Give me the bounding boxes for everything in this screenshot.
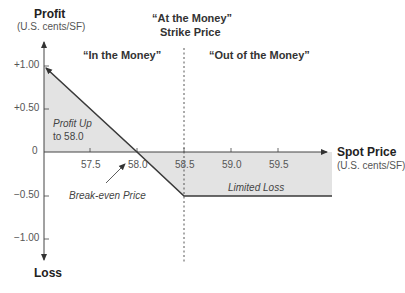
x-tick-label: 58.5 bbox=[175, 159, 194, 170]
x-tick-label: 59.0 bbox=[222, 159, 241, 170]
y-axis-unit: (U.S. cents/SF) bbox=[17, 21, 85, 32]
y-tick-label: 0 bbox=[32, 145, 38, 156]
out-of-the-money-label: “Out of the Money” bbox=[209, 49, 310, 61]
x-axis-title: Spot Price bbox=[337, 145, 396, 159]
x-axis-unit: (U.S. cents/SF) bbox=[337, 160, 405, 171]
x-tick-label: 58.0 bbox=[128, 159, 147, 170]
x-tick-label: 59.5 bbox=[269, 159, 288, 170]
strike-price-label: Strike Price bbox=[160, 26, 221, 38]
y-tick-label: −1.00 bbox=[14, 232, 39, 243]
y-tick-label: +1.00 bbox=[14, 59, 39, 70]
profit-annotation: Profit Up bbox=[53, 118, 92, 129]
y-tick-label: +0.50 bbox=[14, 102, 39, 113]
break-even-annotation: Break-even Price bbox=[69, 190, 146, 201]
y-axis-loss-label: Loss bbox=[34, 266, 62, 280]
profit-annotation-price: to 58.0 bbox=[53, 131, 84, 142]
y-axis-title: Profit bbox=[34, 7, 65, 21]
x-tick-label: 57.5 bbox=[81, 159, 100, 170]
y-tick-label: −0.50 bbox=[14, 189, 39, 200]
in-the-money-label: “In the Money” bbox=[83, 49, 161, 61]
at-the-money-label: “At the Money” bbox=[152, 12, 232, 24]
limited-loss-annotation: Limited Loss bbox=[228, 182, 284, 193]
break-even-pointer bbox=[106, 164, 125, 183]
